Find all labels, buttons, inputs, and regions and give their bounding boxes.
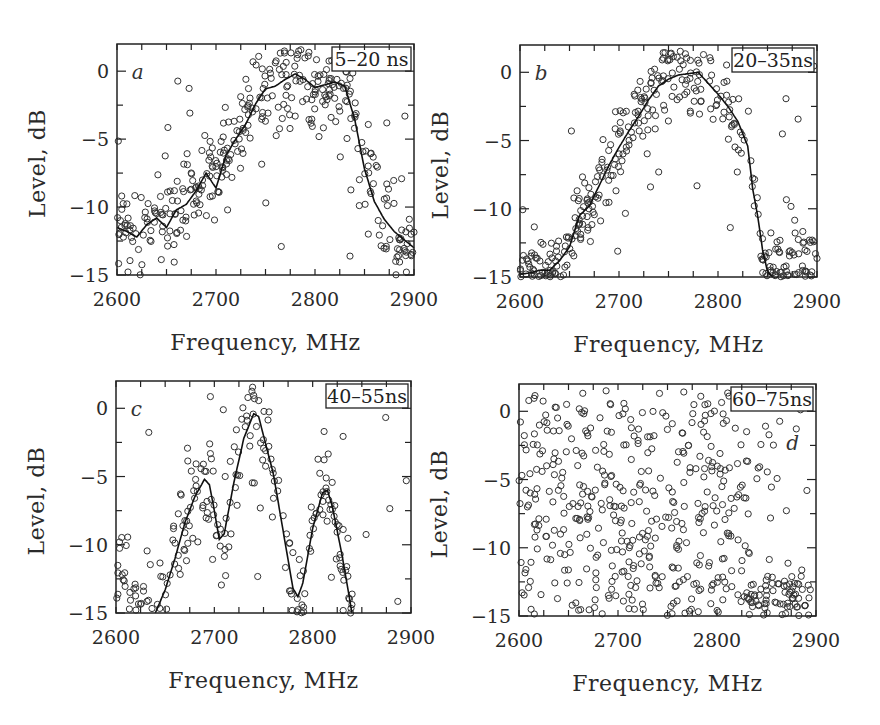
y-tick-label: 0 [97, 60, 109, 82]
y-tick-label: −10 [471, 537, 511, 559]
x-axis-label: Frequency, MHz [168, 668, 358, 693]
x-tick-label: 2900 [387, 626, 435, 648]
panel-a: 5–20 ns26002700280029000−5−10−15Frequenc… [25, 44, 438, 355]
x-tick-label: 2700 [192, 288, 240, 310]
y-tick-label: −5 [81, 128, 109, 150]
y-tick-label: 0 [499, 400, 511, 422]
legend-label: 60–75ns [732, 388, 812, 410]
y-tick-label: −5 [80, 466, 108, 488]
y-tick-label: 0 [96, 397, 108, 419]
x-tick-label: 2600 [496, 290, 544, 312]
x-tick-label: 2600 [495, 629, 543, 651]
panel-d: 60–75ns26002700280029000−5−10−15Frequenc… [427, 384, 840, 696]
scatter-points [115, 47, 418, 278]
fit-curve [155, 414, 352, 613]
panel-letter: a [132, 60, 144, 84]
y-tick-label: −15 [471, 605, 511, 627]
y-tick-label: −5 [484, 130, 512, 152]
panel-c: 40–55ns26002700280029000−5−10−15Frequenc… [24, 381, 435, 693]
x-tick-label: 2900 [792, 629, 840, 651]
x-tick-label: 2600 [93, 288, 141, 310]
x-axis-label: Frequency, MHz [572, 671, 762, 696]
x-tick-label: 2800 [291, 288, 339, 310]
x-tick-label: 2800 [694, 290, 742, 312]
x-tick-label: 2800 [693, 629, 741, 651]
panel-letter: b [535, 61, 548, 85]
y-axis-label: Level, dB [25, 109, 50, 218]
y-tick-label: −15 [68, 602, 108, 624]
x-tick-label: 2700 [190, 626, 238, 648]
panel-letter: c [131, 397, 142, 421]
x-tick-label: 2800 [288, 626, 336, 648]
y-tick-label: −10 [69, 196, 109, 218]
y-axis-label: Level, dB [428, 111, 453, 220]
legend-label: 20–35ns [733, 49, 813, 71]
legend-label: 40–55ns [327, 385, 407, 407]
x-tick-label: 2900 [793, 290, 841, 312]
fit-curve [520, 72, 773, 277]
legend-label: 5–20 ns [335, 48, 409, 70]
y-axis-label: Level, dB [24, 447, 49, 556]
x-axis-label: Frequency, MHz [573, 332, 763, 357]
x-tick-label: 2600 [92, 626, 140, 648]
y-tick-label: −5 [483, 469, 511, 491]
figure-four-panel-spectra: 5–20 ns26002700280029000−5−10−15Frequenc… [0, 0, 880, 725]
x-tick-label: 2900 [390, 288, 438, 310]
scatter-points [517, 48, 820, 280]
y-tick-label: −15 [472, 266, 512, 288]
scatter-points [516, 388, 813, 619]
panel-b: 20–35ns26002700280029000−5−10−15Frequenc… [428, 45, 841, 357]
y-axis-label: Level, dB [427, 450, 452, 559]
x-tick-label: 2700 [595, 290, 643, 312]
x-axis-label: Frequency, MHz [170, 330, 360, 355]
y-tick-label: 0 [500, 61, 512, 83]
y-tick-label: −10 [68, 534, 108, 556]
panel-letter: d [786, 431, 799, 455]
y-tick-label: −10 [472, 198, 512, 220]
y-tick-label: −15 [69, 264, 109, 286]
scatter-points [114, 384, 410, 616]
x-tick-label: 2700 [594, 629, 642, 651]
